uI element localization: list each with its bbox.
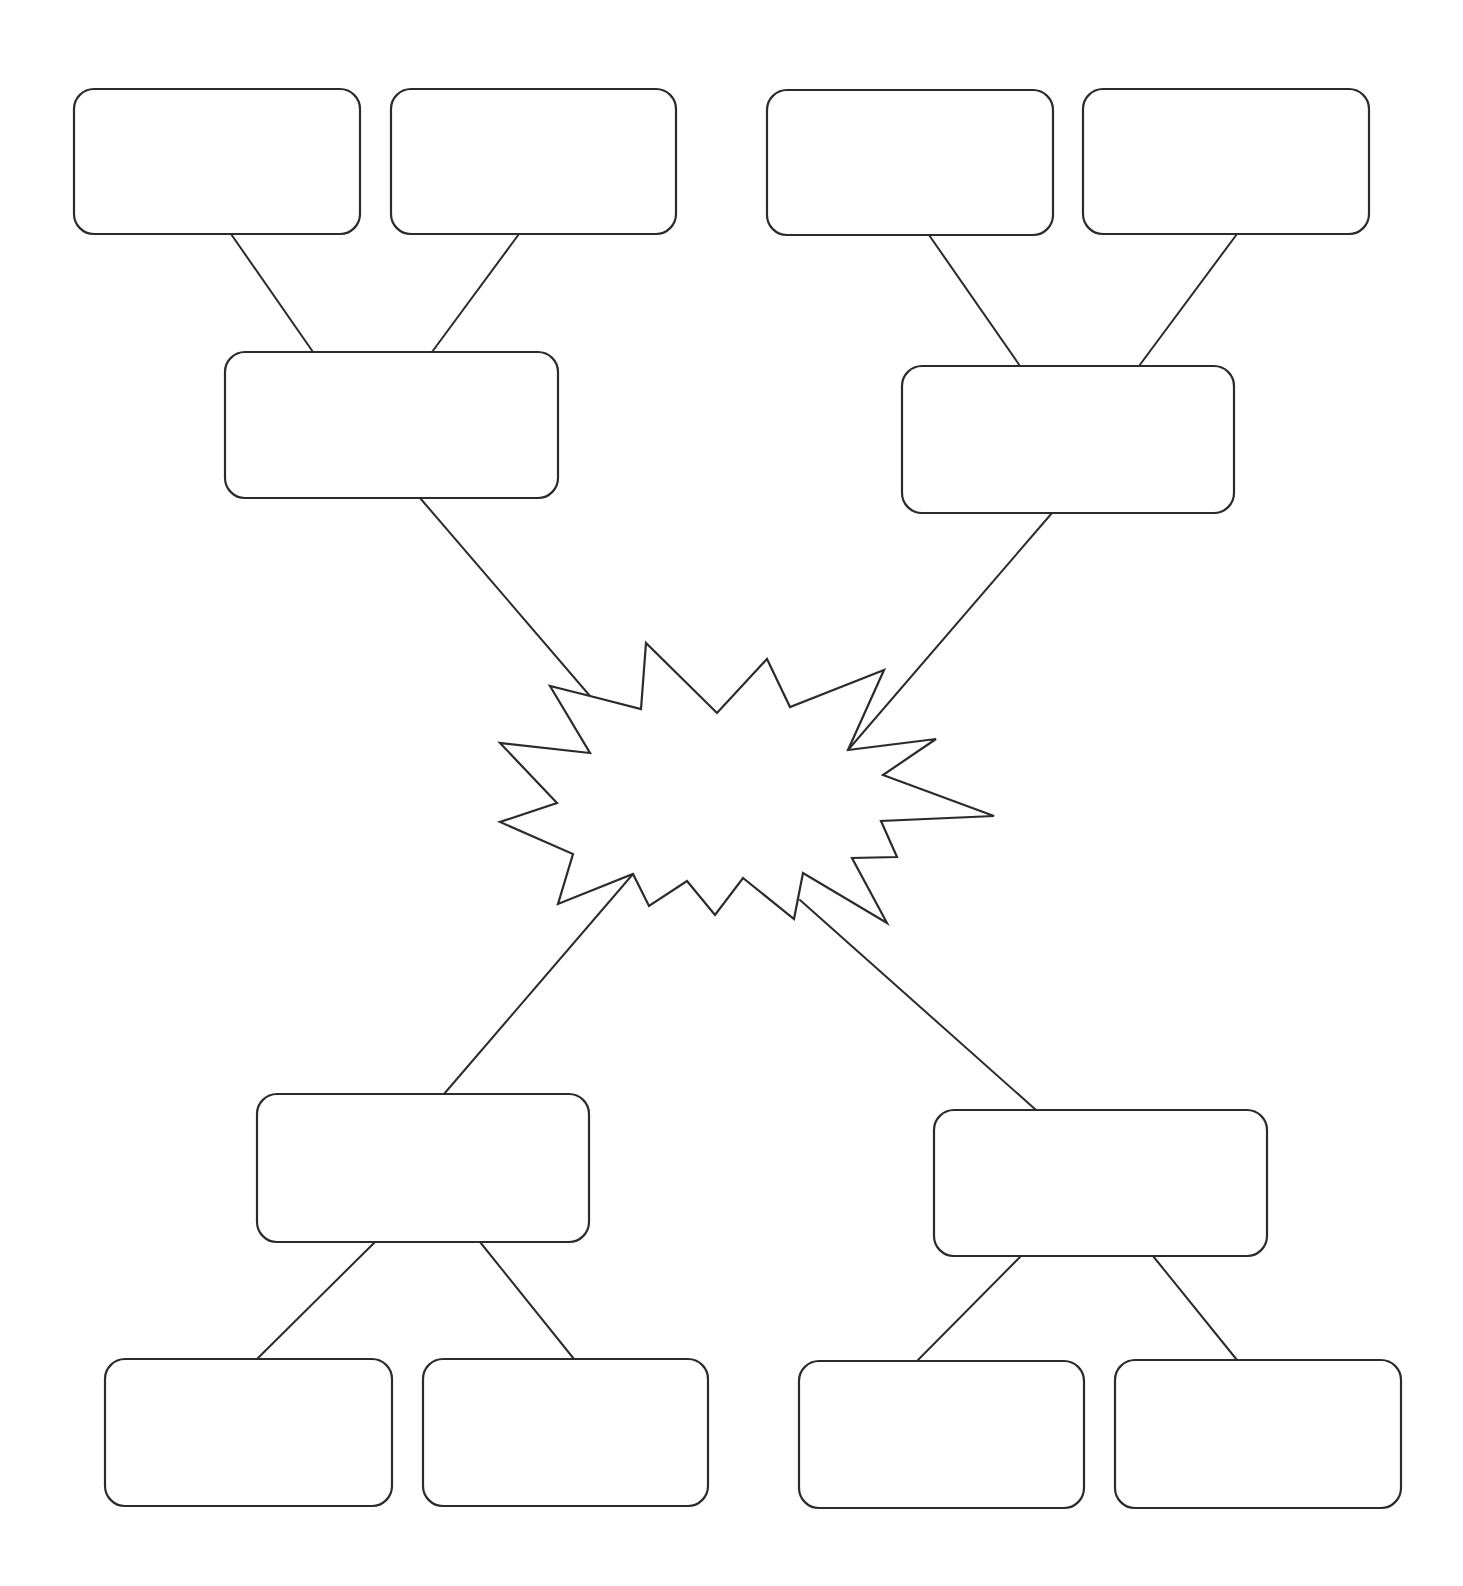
- node-box[interactable]: [902, 366, 1234, 513]
- node-box[interactable]: [105, 1359, 392, 1506]
- node-box[interactable]: [74, 89, 360, 234]
- connector-line-tr-leaf2-to-branch: [1139, 234, 1237, 366]
- center-burst-shape[interactable]: [500, 643, 994, 923]
- node-box[interactable]: [934, 1110, 1267, 1256]
- node-box[interactable]: [257, 1094, 589, 1242]
- connector-line-bl-branch-to-leaf2: [480, 1242, 574, 1359]
- node-bottom-left-leaf-1[interactable]: [105, 1359, 392, 1506]
- connector-line-tl-leaf2-to-branch: [432, 234, 519, 352]
- node-bottom-left-branch[interactable]: [257, 1094, 589, 1242]
- connector-line-center-to-bl-branch: [444, 874, 633, 1094]
- node-box[interactable]: [391, 89, 676, 234]
- graphic-organizer-canvas: [0, 0, 1463, 1586]
- node-top-left-leaf-1[interactable]: [74, 89, 360, 234]
- node-box[interactable]: [1115, 1360, 1401, 1508]
- node-top-left-leaf-2[interactable]: [391, 89, 676, 234]
- node-top-right-leaf-1[interactable]: [767, 90, 1053, 235]
- connector-line-tr-leaf1-to-branch: [929, 235, 1020, 366]
- node-bottom-right-leaf-1[interactable]: [799, 1361, 1084, 1508]
- node-top-left-branch[interactable]: [225, 352, 558, 498]
- node-bottom-right-leaf-2[interactable]: [1115, 1360, 1401, 1508]
- connector-line-center-to-br-branch: [800, 900, 1036, 1110]
- node-box[interactable]: [799, 1361, 1084, 1508]
- connector-line-bl-branch-to-leaf1: [257, 1242, 375, 1359]
- node-box[interactable]: [1083, 89, 1369, 234]
- center-burst-layer: [500, 643, 994, 923]
- node-top-right-leaf-2[interactable]: [1083, 89, 1369, 234]
- node-top-right-branch[interactable]: [902, 366, 1234, 513]
- node-box[interactable]: [767, 90, 1053, 235]
- connector-line-br-branch-to-leaf2: [1153, 1256, 1237, 1360]
- node-bottom-right-branch[interactable]: [934, 1110, 1267, 1256]
- node-box[interactable]: [225, 352, 558, 498]
- node-box[interactable]: [423, 1359, 708, 1506]
- connector-line-tr-branch-to-center: [848, 513, 1052, 750]
- connector-line-br-branch-to-leaf1: [917, 1256, 1021, 1361]
- connector-line-tl-leaf1-to-branch: [231, 234, 313, 352]
- node-bottom-left-leaf-2[interactable]: [423, 1359, 708, 1506]
- connector-line-tl-branch-to-center: [420, 498, 590, 696]
